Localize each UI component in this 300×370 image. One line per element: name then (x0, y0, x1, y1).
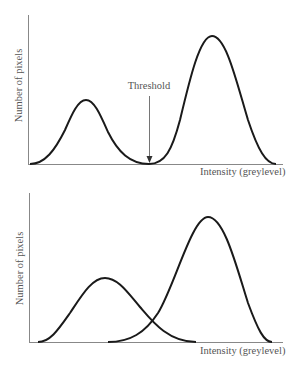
bright-class-curve (108, 217, 272, 342)
top-histogram-plot (0, 0, 300, 185)
top-x-axis-label: Intensity (greylevel) (200, 166, 285, 177)
bottom-x-axis-label: Intensity (greylevel) (200, 345, 285, 356)
threshold-arrow-head (147, 156, 153, 163)
top-histogram-panel: Threshold Number of pixels Intensity (gr… (0, 0, 300, 185)
histogram-curve (30, 36, 276, 164)
bottom-y-axis-label: Number of pixels (14, 227, 25, 311)
threshold-label: Threshold (128, 80, 171, 91)
bottom-histogram-panel: Number of pixels Intensity (greylevel) (0, 185, 300, 370)
bottom-histogram-plot (0, 185, 300, 370)
dark-class-curve (38, 278, 196, 342)
top-y-axis-label: Number of pixels (13, 44, 24, 128)
